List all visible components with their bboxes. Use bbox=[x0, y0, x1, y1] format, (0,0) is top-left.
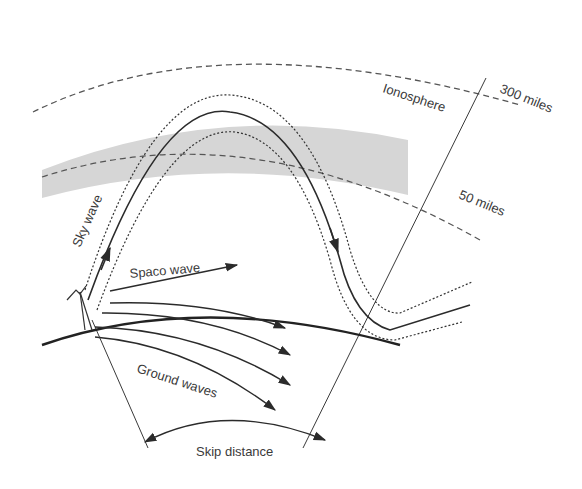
altitude-300-label: 300 miles bbox=[498, 81, 556, 116]
ionosphere-band bbox=[42, 125, 408, 198]
sky-wave-label: Sky wave bbox=[69, 192, 105, 249]
propagation-diagram: Ionosphere 300 miles 50 miles Sky wave S… bbox=[0, 0, 582, 489]
space-wave-label: Spaco wave bbox=[129, 260, 201, 281]
earth-surface bbox=[42, 318, 400, 346]
ground-wave-1 bbox=[110, 303, 285, 328]
left-boundary-line bbox=[92, 320, 148, 448]
ground-waves-label: Ground waves bbox=[135, 361, 220, 401]
skip-distance-label: Skip distance bbox=[196, 444, 273, 459]
antenna-icon bbox=[67, 286, 92, 330]
sky-wave-down-arrow bbox=[330, 228, 338, 252]
skip-distance-arc bbox=[145, 420, 325, 442]
upper-altitude-arc bbox=[33, 64, 520, 112]
ground-wave-4 bbox=[95, 337, 275, 410]
ground-wave-3 bbox=[95, 327, 290, 385]
sky-wave-up-arrow bbox=[101, 248, 110, 270]
ionosphere-label: Ionosphere bbox=[381, 81, 448, 115]
altitude-50-label: 50 miles bbox=[457, 187, 508, 219]
